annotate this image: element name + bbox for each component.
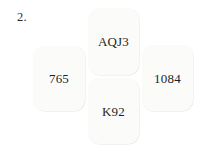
card-north: AQJ3 [88,8,139,75]
card-west-holding: 765 [49,72,69,85]
card-east-holding: 1084 [154,72,181,85]
card-south: K92 [88,78,139,144]
card-east: 1084 [142,45,193,111]
card-west: 765 [33,46,85,111]
card-north-holding: AQJ3 [98,35,129,48]
item-number-label: 2. [17,11,27,24]
diagram-canvas: 2. AQJ3 765 1084 K92 [0,0,209,152]
card-south-holding: K92 [102,105,125,118]
